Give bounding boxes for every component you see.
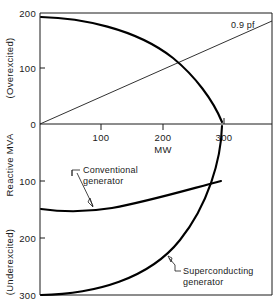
conventional-curve [41, 181, 221, 211]
chart-svg: 200 100 0 100 200 300 100 200 300 MW (Ov… [0, 0, 279, 307]
conventional-label-line2: generator [83, 176, 123, 186]
superconducting-label-line2: generator [183, 277, 223, 287]
superconducting-curve-upper [41, 17, 222, 122]
power-factor-line [40, 21, 272, 124]
y-tick-label-200-over: 200 [19, 8, 36, 19]
y-axis-underexcited-note: (Underexcited) [4, 229, 15, 296]
x-axis-title: MW [154, 144, 171, 155]
y-axis-overexcited-note: (Overexcited) [4, 38, 15, 99]
x-tick-label-200: 200 [155, 132, 172, 143]
conventional-label-line1: Conventional [83, 165, 138, 175]
power-factor-label: 0.9 pf [231, 20, 255, 30]
x-tick-label-300: 300 [216, 132, 233, 143]
superconducting-label-line1: Superconducting [183, 266, 254, 276]
y-tick-label-100-under: 100 [19, 176, 36, 187]
y-axis-ticks [40, 68, 45, 238]
capability-curve-figure: 200 100 0 100 200 300 100 200 300 MW (Ov… [0, 0, 279, 307]
superconducting-annotation-leader [168, 256, 181, 271]
x-tick-label-100: 100 [93, 132, 110, 143]
y-tick-label-0: 0 [30, 119, 36, 130]
y-tick-label-100-over: 100 [19, 63, 36, 74]
y-tick-label-200-under: 200 [19, 233, 36, 244]
y-tick-label-300-under: 300 [19, 290, 36, 301]
y-axis-title: Reactive MVA [4, 133, 15, 196]
